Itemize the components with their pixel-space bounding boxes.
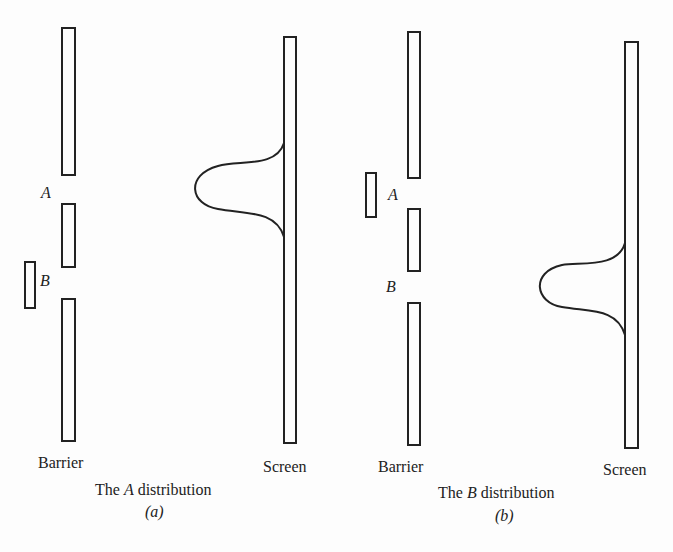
barrier-a-middle xyxy=(62,204,75,267)
slit-blocker-b xyxy=(366,173,376,217)
sublabel-panel-a: (a) xyxy=(145,503,164,521)
slit-b-label-panel-a: B xyxy=(40,272,50,290)
barrier-a-top xyxy=(62,28,75,175)
slit-a-label-panel-b: A xyxy=(388,186,398,204)
screen-b xyxy=(625,42,638,448)
barrier-label-panel-a: Barrier xyxy=(38,454,83,472)
barrier-b-middle xyxy=(408,209,420,271)
caption-panel-a: The A distribution xyxy=(95,481,211,499)
distribution-curve-b xyxy=(540,243,625,335)
caption-panel-b: The B distribution xyxy=(438,484,554,502)
distribution-curve-a xyxy=(195,143,284,237)
screen-label-panel-a: Screen xyxy=(263,458,307,476)
barrier-label-panel-b: Barrier xyxy=(378,458,423,476)
slit-b-label-panel-b: B xyxy=(386,278,396,296)
slit-a-label-panel-a: A xyxy=(41,184,51,202)
sublabel-panel-b: (b) xyxy=(495,507,514,525)
barrier-b-bottom xyxy=(408,303,420,445)
slit-blocker-a xyxy=(25,262,35,308)
screen-label-panel-b: Screen xyxy=(603,461,647,479)
double-slit-diagram xyxy=(0,0,673,552)
barrier-b-top xyxy=(408,32,420,178)
screen-a xyxy=(284,37,296,443)
barrier-a-bottom xyxy=(62,299,75,441)
